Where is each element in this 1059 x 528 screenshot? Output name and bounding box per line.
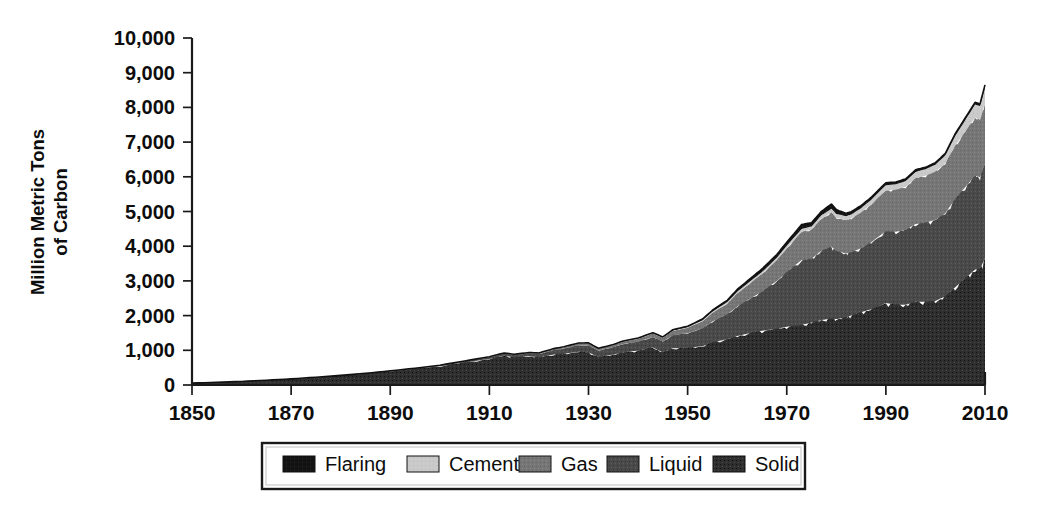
y-tick-label-0: 0 bbox=[164, 374, 175, 396]
plot-areas bbox=[192, 85, 985, 385]
legend-item-cement[interactable]: Cement bbox=[407, 453, 519, 475]
legend-item-solid[interactable]: Solid bbox=[713, 453, 799, 475]
legend: FlaringCementGasLiquidSolid bbox=[262, 443, 805, 489]
legend-swatch-gas bbox=[519, 456, 551, 472]
y-tick-label-9000: 9,000 bbox=[125, 62, 175, 84]
y-tick-label-1000: 1,000 bbox=[125, 339, 175, 361]
y-tick-label-2000: 2,000 bbox=[125, 305, 175, 327]
y-tick-group: 01,0002,0003,0004,0005,0006,0007,0008,00… bbox=[114, 27, 192, 396]
legend-label-solid: Solid bbox=[755, 453, 799, 475]
y-tick-label-8000: 8,000 bbox=[125, 96, 175, 118]
x-tick-label-1930: 1930 bbox=[565, 401, 612, 424]
legend-label-liquid: Liquid bbox=[649, 453, 702, 475]
legend-label-gas: Gas bbox=[561, 453, 598, 475]
y-tick-label-10000: 10,000 bbox=[114, 27, 175, 49]
y-axis-title-line2: of Carbon bbox=[50, 168, 71, 255]
legend-item-flaring[interactable]: Flaring bbox=[283, 453, 386, 475]
y-tick-label-3000: 3,000 bbox=[125, 270, 175, 292]
legend-swatch-solid bbox=[713, 456, 745, 472]
x-tick-label-1850: 1850 bbox=[169, 401, 216, 424]
y-tick-label-7000: 7,000 bbox=[125, 131, 175, 153]
legend-swatch-liquid bbox=[607, 456, 639, 472]
legend-item-liquid[interactable]: Liquid bbox=[607, 453, 702, 475]
legend-swatch-flaring bbox=[283, 456, 315, 472]
legend-swatch-cement bbox=[407, 456, 439, 472]
legend-label-flaring: Flaring bbox=[325, 453, 386, 475]
x-tick-group: 185018701890191019301950197019902010 bbox=[169, 385, 1009, 424]
legend-label-cement: Cement bbox=[449, 453, 519, 475]
y-tick-label-4000: 4,000 bbox=[125, 235, 175, 257]
x-tick-label-1970: 1970 bbox=[763, 401, 810, 424]
y-tick-label-5000: 5,000 bbox=[125, 201, 175, 223]
x-tick-label-1910: 1910 bbox=[466, 401, 513, 424]
x-tick-label-1990: 1990 bbox=[863, 401, 910, 424]
legend-items: FlaringCementGasLiquidSolid bbox=[283, 453, 799, 475]
figure-container: 01,0002,0003,0004,0005,0006,0007,0008,00… bbox=[0, 0, 1059, 528]
x-tick-label-1870: 1870 bbox=[268, 401, 315, 424]
y-axis-title-line1: Million Metric Tons bbox=[27, 129, 48, 295]
stacked-area-chart: 01,0002,0003,0004,0005,0006,0007,0008,00… bbox=[0, 0, 1059, 528]
y-tick-label-6000: 6,000 bbox=[125, 166, 175, 188]
x-tick-label-1890: 1890 bbox=[367, 401, 414, 424]
x-tick-label-2010: 2010 bbox=[962, 401, 1009, 424]
x-tick-label-1950: 1950 bbox=[664, 401, 711, 424]
y-axis-title: Million Metric Tons of Carbon bbox=[27, 129, 71, 295]
